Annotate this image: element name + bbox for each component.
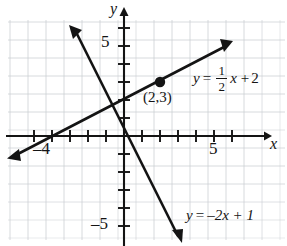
eq1-numerator: 1 xyxy=(216,64,227,77)
y-axis-label: y xyxy=(110,1,117,17)
eq2-equals: = xyxy=(196,208,204,223)
equation-label-line2: y = –2x + 1 xyxy=(186,208,254,223)
x-axis-label: x xyxy=(270,136,277,152)
x-tick-label-5: 5 xyxy=(209,140,218,157)
eq1-fraction-one-half: 1 2 xyxy=(216,64,227,93)
eq1-equals: = xyxy=(203,71,211,86)
eq1-denominator: 2 xyxy=(216,80,227,93)
y-tick-label-neg5: –5 xyxy=(91,215,108,232)
eq2-lhs: y xyxy=(186,208,193,223)
coordinate-graph: y x 5 –5 –4 5 (2,3) y = 1 2 x + 2 y = –2… xyxy=(0,0,287,246)
point-label-2-3: (2,3) xyxy=(143,90,172,105)
eq1-constant: 2 xyxy=(251,71,259,86)
eq1-lhs: y xyxy=(193,71,200,86)
data-point-2-3 xyxy=(155,77,165,87)
equation-label-line1: y = 1 2 x + 2 xyxy=(193,64,259,93)
eq1-variable: x xyxy=(230,71,237,86)
eq1-plus: + xyxy=(241,71,249,86)
eq2-rhs: –2x + 1 xyxy=(207,208,254,223)
y-tick-label-5: 5 xyxy=(101,33,110,50)
x-tick-label-neg4: –4 xyxy=(33,140,50,157)
